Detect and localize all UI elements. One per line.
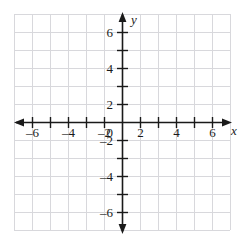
y-tick-label-2: 2: [107, 97, 114, 112]
x-tick-label-6: 6: [209, 125, 216, 140]
y-tick-label-neg4: –4: [99, 169, 114, 184]
x-tick-label-2: 2: [137, 125, 144, 140]
coordinate-plane-figure: –6 –4 –2 2 4 6 6 4 2 –2 –4 –6 0 x y: [0, 0, 244, 247]
coordinate-grid-svg: –6 –4 –2 2 4 6 6 4 2 –2 –4 –6 0 x y: [0, 0, 244, 247]
x-tick-label-neg6: –6: [25, 125, 40, 140]
y-axis-label: y: [129, 12, 137, 27]
x-tick-label-neg4: –4: [61, 125, 76, 140]
x-tick-label-4: 4: [173, 125, 180, 140]
x-axis-label: x: [230, 123, 237, 138]
y-tick-label-4: 4: [107, 61, 114, 76]
y-tick-label-neg6: –6: [99, 205, 114, 220]
y-tick-label-6: 6: [107, 25, 114, 40]
origin-label: 0: [107, 125, 114, 140]
